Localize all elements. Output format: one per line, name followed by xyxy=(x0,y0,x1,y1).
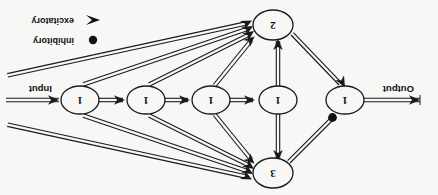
output-label: Output xyxy=(383,84,414,95)
edge-top-to-chain1-inhibitory xyxy=(288,119,332,163)
edge-chain2-to-bottom xyxy=(273,39,283,86)
node-label-top: 3 xyxy=(263,168,283,180)
edge-chain4-to-chain3 xyxy=(165,95,190,105)
edge-bottom-to-chain1 xyxy=(291,33,345,88)
node-label-chain-2: 1 xyxy=(268,95,288,107)
edge-input-line-to-top xyxy=(7,123,252,180)
node-label-chain-3: 1 xyxy=(201,95,221,107)
node-label-bottom: 2 xyxy=(263,20,283,32)
node-label-chain-1: 1 xyxy=(335,95,355,107)
edge-chain2-to-top xyxy=(273,114,283,161)
node-label-chain-5: 1 xyxy=(70,95,90,107)
edge-input-line-to-bottom xyxy=(7,21,252,78)
edge-chain1-to-output xyxy=(364,95,420,105)
edge-chain3-to-chain2 xyxy=(230,95,255,105)
circuit-figure: 1 1 1 1 1 3 2 Output Input inhibitory ex… xyxy=(0,0,438,195)
legend-excitatory-arrow-icon xyxy=(86,15,100,25)
edge-chain5-to-chain4 xyxy=(99,95,125,105)
inhibitory-terminal-dot xyxy=(328,113,337,122)
input-label: Input xyxy=(29,84,52,95)
legend-marks xyxy=(86,15,100,44)
legend-inhibitory-dot-icon xyxy=(89,36,97,44)
legend-label-excitatory: excitatory xyxy=(31,16,74,26)
node-label-chain-4: 1 xyxy=(136,95,156,107)
edge-input-to-chain5 xyxy=(6,95,59,105)
legend-label-inhibitory: inhibitory xyxy=(33,36,74,46)
